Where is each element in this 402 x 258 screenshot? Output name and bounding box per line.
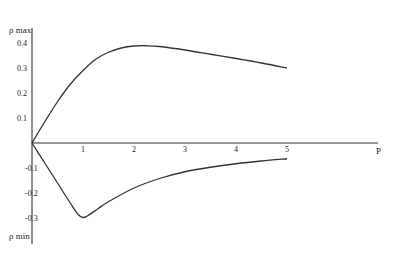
y-tick-label: 0.3	[17, 64, 27, 73]
y-tick-label: -0.3	[25, 214, 38, 223]
x-tick-label: 4	[234, 145, 238, 154]
x-tick-label: 3	[183, 145, 187, 154]
y-tick-label: 0.2	[17, 89, 27, 98]
x-tick-label: 5	[285, 145, 289, 154]
axes	[32, 28, 378, 244]
y-axis-label-min: ρ min	[9, 231, 30, 241]
y-tick-label: -0.2	[25, 189, 38, 198]
curves	[32, 46, 287, 218]
y-tick-label: -0.1	[25, 164, 38, 173]
x-tick-label: 1	[81, 145, 85, 154]
rho-max-curve	[32, 46, 287, 143]
line-chart: 12345 0.40.30.20.1-0.1-0.2-0.3 ρ max ρ m…	[0, 0, 402, 258]
x-axis-label: P	[376, 146, 381, 156]
y-tick-label: 0.4	[17, 39, 27, 48]
rho-min-curve	[32, 143, 287, 218]
x-tick-labels: 12345	[81, 145, 289, 154]
y-tick-labels: 0.40.30.20.1-0.1-0.2-0.3	[17, 39, 38, 223]
y-tick-label: 0.1	[17, 114, 27, 123]
y-axis-label-max: ρ max	[9, 25, 32, 35]
x-tick-label: 2	[132, 145, 136, 154]
